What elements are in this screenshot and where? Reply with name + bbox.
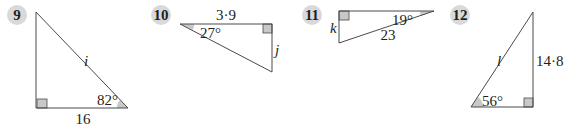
problem-number: 12 bbox=[453, 7, 468, 23]
known-side-label: 16 bbox=[76, 111, 92, 126]
problem-number: 9 bbox=[13, 7, 21, 23]
unknown-side-label: k bbox=[330, 20, 337, 36]
problem-12: 12 l 14·8 56° bbox=[450, 5, 564, 109]
angle-label: 56° bbox=[482, 93, 503, 109]
right-angle-marker bbox=[524, 98, 533, 107]
known-side-label: 14·8 bbox=[536, 53, 564, 69]
unknown-side-label: j bbox=[273, 42, 279, 58]
unknown-side-label: l bbox=[497, 53, 501, 69]
right-angle-marker bbox=[339, 11, 349, 20]
angle-label: 82° bbox=[97, 92, 118, 108]
problem-10: 10 3·9 27° j bbox=[151, 5, 279, 72]
problem-number: 11 bbox=[305, 7, 319, 23]
angle-label: 27° bbox=[200, 25, 221, 41]
problem-9: 9 i 16 82° bbox=[7, 5, 128, 126]
known-side-label: 3·9 bbox=[216, 7, 236, 23]
right-angle-marker bbox=[263, 24, 272, 33]
angle-label: 19° bbox=[392, 12, 413, 28]
triangle-exercises: 9 i 16 82° 10 3·9 27° j 11 k 19° 23 12 l bbox=[0, 0, 567, 126]
known-side-label: 23 bbox=[381, 27, 396, 43]
unknown-side-label: i bbox=[84, 53, 88, 69]
problem-11: 11 k 19° 23 bbox=[302, 5, 434, 43]
right-triangle bbox=[180, 24, 272, 72]
right-angle-marker bbox=[37, 99, 47, 108]
problem-number: 10 bbox=[154, 7, 169, 23]
